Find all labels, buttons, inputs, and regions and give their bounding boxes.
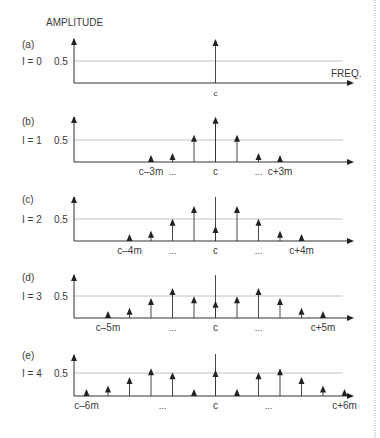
- sideband-high-label: c+4m: [289, 245, 314, 256]
- stem-arrow-icon: [256, 153, 262, 160]
- stem-arrow-icon: [148, 231, 154, 238]
- sideband-low-label: c–4m: [117, 245, 141, 256]
- stem-arrow-icon: [213, 117, 219, 124]
- ellipsis-right: ...: [265, 401, 273, 411]
- stem-arrow-icon: [127, 234, 133, 241]
- y-axis-arrow-icon: [71, 274, 77, 281]
- sideband-low-label: c–3m: [139, 166, 163, 177]
- x-axis-arrow-icon: [347, 159, 354, 165]
- y-axis-arrow-icon: [71, 196, 77, 203]
- stem-arrow-icon: [105, 386, 111, 393]
- ref-level-label: 0.5: [54, 214, 68, 225]
- stem-arrow-icon: [320, 386, 326, 393]
- modulation-index-label: I = 1: [22, 135, 42, 146]
- stem-arrow-icon: [256, 288, 262, 295]
- stem-arrow-icon: [277, 155, 283, 162]
- stem-arrow-icon: [277, 231, 283, 238]
- ref-level-label: 0.5: [54, 56, 68, 67]
- modulation-index-label: I = 3: [22, 291, 42, 302]
- stem-arrow-icon: [213, 301, 219, 308]
- x-axis-arrow-icon: [347, 315, 354, 321]
- fm-spectrum-figure: AMPLITUDE (a)I = 00.5cFREQ.(b)I = 10.5c.…: [0, 0, 380, 438]
- stem-arrow-icon: [170, 153, 176, 160]
- modulation-index-label: I = 2: [22, 214, 42, 225]
- stem-arrow-icon: [299, 308, 305, 315]
- x-axis-arrow-icon: [347, 80, 354, 86]
- panel-tag: (b): [22, 116, 34, 127]
- stem-arrow-icon: [148, 368, 154, 375]
- stem-arrow-icon: [234, 135, 240, 142]
- sideband-high-label: c+6m: [332, 400, 357, 411]
- stem-arrow-icon: [234, 389, 240, 396]
- carrier-label: c: [214, 89, 218, 98]
- stem-arrow-icon: [148, 155, 154, 162]
- sideband-high-label: c+3m: [268, 166, 293, 177]
- panel-tag: (a): [22, 39, 34, 50]
- stem-arrow-icon: [127, 377, 133, 384]
- stem-arrow-icon: [148, 298, 154, 305]
- spectrum-panel-e: (e)I = 40.5c......c–6mc+6m: [22, 350, 357, 411]
- stem-arrow-icon: [299, 377, 305, 384]
- stem-arrow-icon: [213, 370, 219, 377]
- y-axis-arrow-icon: [71, 354, 77, 361]
- stem-arrow-icon: [191, 206, 197, 213]
- carrier-label: c: [213, 400, 218, 411]
- stem-arrow-icon: [170, 219, 176, 226]
- ellipsis-right: ...: [255, 246, 263, 256]
- modulation-index-label: I = 0: [22, 56, 42, 67]
- stem-arrow-icon: [277, 298, 283, 305]
- spectrum-panel-b: (b)I = 10.5c......c–3mc+3m: [22, 116, 354, 177]
- stem-arrow-icon: [234, 206, 240, 213]
- stem-arrow-icon: [213, 39, 219, 46]
- modulation-index-label: I = 4: [22, 368, 42, 379]
- spectrum-panel-c: (c)I = 20.5c......c–4mc+4m: [22, 194, 354, 256]
- stem-arrow-icon: [191, 296, 197, 303]
- stem-arrow-icon: [127, 308, 133, 315]
- carrier-label: c: [213, 322, 218, 333]
- stem-arrow-icon: [170, 288, 176, 295]
- stem-arrow-icon: [256, 219, 262, 226]
- ellipsis-right: ...: [255, 167, 263, 177]
- carrier-label: c: [213, 166, 218, 177]
- panel-tag: (d): [22, 272, 34, 283]
- ref-level-label: 0.5: [54, 368, 68, 379]
- stem-arrow-icon: [213, 226, 219, 233]
- y-axis-title: AMPLITUDE: [46, 17, 104, 28]
- ellipsis-left: ...: [169, 167, 177, 177]
- ellipsis-right: ...: [255, 323, 263, 333]
- stem-arrow-icon: [191, 389, 197, 396]
- x-axis-arrow-icon: [347, 238, 354, 244]
- stem-arrow-icon: [277, 368, 283, 375]
- spectrum-panel-a: (a)I = 00.5cFREQ.: [22, 38, 362, 98]
- ellipsis-left: ...: [169, 323, 177, 333]
- stem-arrow-icon: [299, 234, 305, 241]
- sideband-high-label: c+5m: [311, 322, 336, 333]
- stem-arrow-icon: [84, 389, 90, 396]
- ellipsis-left: ...: [169, 246, 177, 256]
- stem-arrow-icon: [105, 311, 111, 318]
- sideband-low-label: c–6m: [74, 400, 98, 411]
- stem-arrow-icon: [320, 311, 326, 318]
- ref-level-label: 0.5: [54, 291, 68, 302]
- panel-tag: (c): [22, 194, 34, 205]
- stem-arrow-icon: [234, 296, 240, 303]
- x-axis-title: FREQ.: [331, 68, 362, 79]
- panel-tag: (e): [22, 350, 34, 361]
- spectrum-panel-d: (d)I = 30.5c......c–5mc+5m: [22, 272, 354, 333]
- ref-level-label: 0.5: [54, 135, 68, 146]
- y-axis-arrow-icon: [71, 38, 77, 45]
- ellipsis-left: ...: [159, 401, 167, 411]
- carrier-label: c: [213, 245, 218, 256]
- stem-arrow-icon: [342, 389, 348, 396]
- x-axis-arrow-icon: [347, 393, 354, 399]
- sideband-low-label: c–5m: [96, 322, 120, 333]
- y-axis-arrow-icon: [71, 116, 77, 123]
- stem-arrow-icon: [191, 135, 197, 142]
